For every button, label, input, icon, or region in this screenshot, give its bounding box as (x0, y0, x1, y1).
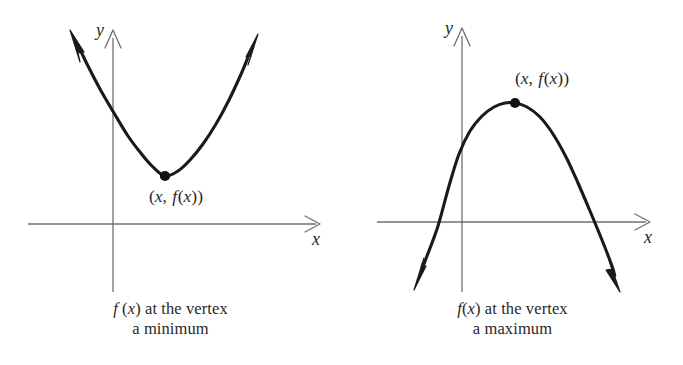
point-label-var-x-maximum: x (520, 68, 529, 88)
panel-maximum: y x (x, f(x)) f(x) at the vertex a maxim… (342, 0, 683, 365)
curve-arrow-up-left-icon-minimum (70, 30, 84, 62)
caption-open-minimum: ( (118, 299, 128, 318)
parabola-curve-minimum (80, 49, 248, 177)
caption-line1-minimum: f (x) at the vertex (0, 299, 341, 319)
vertex-point-maximum (510, 98, 520, 108)
figure-root: y x (x, f(x)) f (x) at the vertex a mini… (0, 0, 683, 365)
caption-line1-maximum: f(x) at the vertex (342, 299, 683, 319)
point-label-close-paren-minimum: ) (197, 186, 203, 206)
plot-maximum: y x (x, f(x)) (342, 0, 683, 300)
point-label-close-paren-maximum: ) (563, 68, 569, 88)
caption-rest-maximum: ) at the vertex (475, 299, 568, 318)
plot-minimum: y x (x, f(x)) (0, 0, 341, 300)
vertex-point-minimum (160, 171, 170, 181)
caption-minimum: f (x) at the vertex a minimum (0, 299, 341, 339)
vertex-point-label-minimum: (x, f(x)) (149, 186, 203, 206)
caption-var-maximum: x (468, 299, 475, 318)
x-axis-label-minimum: x (311, 229, 320, 249)
y-axis-label-minimum: y (94, 20, 104, 40)
vertex-point-label-maximum: (x, f(x)) (515, 68, 569, 88)
point-label-func-var-minimum: x (183, 186, 192, 206)
caption-rest-minimum: ) at the vertex (135, 299, 228, 318)
y-axis-label-maximum: y (443, 18, 453, 38)
point-label-var-x-minimum: x (154, 186, 163, 206)
panel-minimum: y x (x, f(x)) f (x) at the vertex a mini… (0, 0, 341, 365)
point-label-comma-minimum: , (163, 186, 172, 206)
caption-line2-maximum: a maximum (342, 319, 683, 339)
point-label-comma-maximum: , (529, 68, 538, 88)
caption-line2-minimum: a minimum (0, 319, 341, 339)
caption-maximum: f(x) at the vertex a maximum (342, 299, 683, 339)
point-label-func-var-maximum: x (549, 68, 558, 88)
parabola-curve-maximum (422, 102, 615, 275)
x-axis-label-maximum: x (643, 227, 652, 247)
